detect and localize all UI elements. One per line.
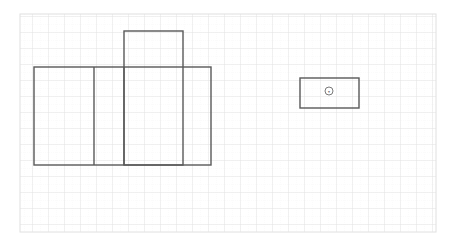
drawing-canvas[interactable]: • Floor Plan Sketch Canvas circled-glyph… [0,0,456,245]
graph-paper-grid [20,14,436,232]
vector-drawing-surface[interactable]: • [0,0,456,245]
circled-symbol-marker[interactable]: • [325,87,333,96]
